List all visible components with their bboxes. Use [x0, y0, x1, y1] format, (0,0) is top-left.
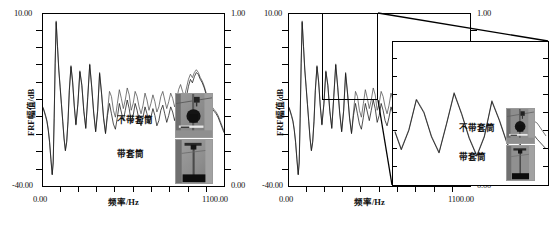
zoom-inset-ytick — [392, 130, 397, 131]
left-panel-y2tick — [225, 169, 231, 170]
left-panel-ytick — [36, 30, 42, 31]
right-panel-xtick — [360, 187, 361, 192]
right-panel-x-min-label: 0.00 — [279, 195, 293, 204]
left-panel-xtick — [96, 187, 97, 192]
right-panel-ytick — [282, 99, 288, 100]
left-panel-y2tick — [225, 151, 231, 152]
left-panel-x-max-label: 1100.00 — [202, 195, 228, 204]
zoom-inset-ytick — [543, 148, 549, 149]
left-panel-y2tick — [225, 82, 231, 83]
zoom-inset-ytick — [543, 76, 549, 77]
zoom-inset-ytick — [392, 76, 397, 77]
left-panel-y2tick — [225, 116, 231, 117]
left-panel-xtick — [206, 187, 207, 192]
left-panel-y2-max-label: 1.00 — [231, 9, 245, 18]
left-panel-y-max-label: 10.00 — [14, 9, 32, 18]
zoom-inset-ytick — [543, 130, 549, 131]
zoom-selection-rect — [322, 13, 378, 100]
left-panel-xtick — [188, 187, 189, 192]
left-panel-xtick — [114, 187, 115, 192]
left-panel-x-axis-title: 频率/Hz — [108, 198, 139, 207]
right-panel-ytick — [282, 47, 288, 48]
zoom-inset-photo-with-sleeve — [506, 145, 535, 181]
right-panel-xtick — [324, 187, 325, 192]
left-panel-y2tick — [225, 99, 231, 100]
zoom-inset-ytick — [543, 112, 549, 113]
left-panel-y2-min-label: 0.00 — [231, 181, 245, 190]
right-panel-x-axis-title: 频率/Hz — [354, 198, 385, 207]
left-panel-photo-without-sleeve — [175, 93, 213, 138]
right-panel-xtick — [434, 187, 435, 192]
right-panel-ytick — [282, 64, 288, 65]
left-panel-photo-with-sleeve — [175, 139, 213, 184]
left-panel-ytick — [36, 99, 42, 100]
left-panel-xtick — [60, 187, 61, 192]
right-panel-x-max-label: 1100.00 — [448, 195, 474, 204]
left-panel-y2tick — [225, 30, 231, 31]
left-panel-ytick — [36, 169, 42, 170]
left-panel-ytick — [36, 82, 42, 83]
left-panel-ytick — [36, 64, 42, 65]
right-panel-y-min-label: -40.00 — [262, 181, 283, 190]
right-panel-ytick — [282, 116, 288, 117]
right-panel-xtick — [306, 187, 307, 192]
left-panel-ytick — [36, 151, 42, 152]
right-panel-xtick — [379, 187, 380, 192]
zoom-inset-ytick — [392, 112, 397, 113]
left-panel-legend-label-with-sleeve: 带套筒 — [117, 150, 144, 159]
right-panel-xtick — [415, 187, 416, 192]
right-panel-ytick — [282, 169, 288, 170]
right-panel-ytick — [282, 151, 288, 152]
left-panel: 10.00 -40.00 FRF幅值/dB — [0, 0, 250, 226]
zoom-inset-ytick — [392, 58, 397, 59]
right-panel-xtick — [397, 187, 398, 192]
right-panel-y-max-label: 10.00 — [264, 9, 282, 18]
zoom-inset-ytick — [392, 94, 397, 95]
zoom-inset-legend-label-with-sleeve: 带套筒 — [459, 153, 486, 162]
right-panel-y-axis-title: FRF幅值/dB — [276, 89, 285, 136]
left-panel-ytick — [36, 47, 42, 48]
right-panel-y2tick — [471, 30, 477, 31]
zoom-inset-ytick — [392, 148, 397, 149]
right-panel-ytick — [282, 30, 288, 31]
left-panel-legend-label-without-sleeve: 不带套筒 — [117, 116, 153, 125]
left-panel-y2tick — [225, 64, 231, 65]
zoom-inset-ytick — [543, 58, 549, 59]
zoom-inset-legend-label-without-sleeve: 不带套筒 — [459, 124, 495, 133]
zoom-inset-ytick — [392, 166, 397, 167]
frf-comparison-figure: 10.00 -40.00 FRF幅值/dB — [0, 0, 560, 226]
left-panel-y-min-label: -40.00 — [12, 181, 33, 190]
zoom-inset-ytick — [543, 94, 549, 95]
left-panel-y2tick — [225, 47, 231, 48]
right-panel-y2-max-label: 1.00 — [477, 9, 491, 18]
right-panel-ytick — [282, 134, 288, 135]
left-panel-xtick — [133, 187, 134, 192]
left-panel-ytick — [36, 116, 42, 117]
zoom-inset-photo-without-sleeve — [506, 108, 535, 144]
left-panel-x-min-label: 0.00 — [33, 195, 47, 204]
right-panel-xtick — [452, 187, 453, 192]
left-panel-y2tick — [225, 134, 231, 135]
zoom-inset-ytick — [543, 166, 549, 167]
left-panel-xtick — [78, 187, 79, 192]
right-panel-ytick — [282, 82, 288, 83]
right-panel-xtick — [342, 187, 343, 192]
left-panel-y-axis-title: FRF幅值/dB — [27, 89, 36, 136]
left-panel-ytick — [36, 134, 42, 135]
left-panel-xtick — [169, 187, 170, 192]
left-panel-xtick — [151, 187, 152, 192]
